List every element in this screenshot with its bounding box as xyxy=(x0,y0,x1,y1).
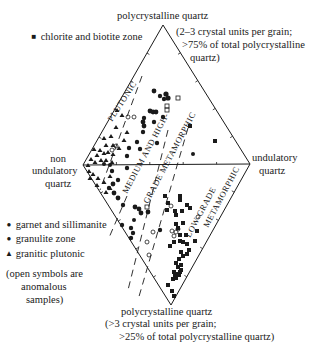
legend-chlorite-biotite: ■ chlorite and biotite zone xyxy=(30,31,142,43)
top-vertex-label: polycrystalline quartz xyxy=(117,10,208,22)
right-vertex-label-1: undulatory xyxy=(252,152,298,164)
top-vertex-sublabel-2: >75% of total polycrystalline xyxy=(182,39,305,51)
filled-circle-icon: ● xyxy=(5,219,13,231)
filled-circle-icon: ● xyxy=(5,233,13,245)
top-vertex-sublabel-1: (2–3 crystal units per grain; xyxy=(176,26,292,38)
legend-label: granulite zone xyxy=(16,233,76,244)
bottom-vertex-sublabel-2: >25% of total polycrystalline quartz) xyxy=(119,331,274,343)
right-vertex-label-2: quartz xyxy=(259,165,285,177)
legend-granulite: ● granulite zone xyxy=(5,233,75,245)
field-label-medium-high: MEDIUM AND HIGH- xyxy=(120,111,171,195)
legend-garnet-sillimanite: ● garnet and sillimanite xyxy=(5,219,107,231)
legend-note-1: (open symbols are xyxy=(6,268,83,280)
left-vertex-label-1: non xyxy=(46,153,70,165)
bottom-vertex-sublabel-1: (>3 crystal units per grain; xyxy=(105,318,216,330)
legend-label: garnet and sillimanite xyxy=(16,219,107,230)
granitic-plutonic-points xyxy=(86,108,130,194)
filled-square-icon: ■ xyxy=(30,31,38,43)
legend-label: granitic plutonic xyxy=(16,248,85,259)
legend-granitic-plutonic: ▲ granitic plutonic xyxy=(5,248,85,260)
filled-triangle-icon: ▲ xyxy=(5,248,13,260)
legend-note-2: anomalous xyxy=(21,281,67,293)
legend-label: chlorite and biotite zone xyxy=(41,31,143,42)
bottom-vertex-label: polycrystalline quartz xyxy=(121,306,212,318)
left-vertex-label-2: undulatory xyxy=(32,165,78,177)
top-vertex-sublabel-3: quartz) xyxy=(190,52,220,64)
left-vertex-label-3: quartz xyxy=(45,178,71,190)
legend-note-3: samples) xyxy=(26,294,63,306)
